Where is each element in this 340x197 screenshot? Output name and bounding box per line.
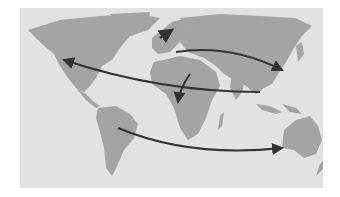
australia (282, 116, 322, 158)
new-zealand (316, 158, 323, 176)
arrow-south-america-to-australia (118, 128, 282, 151)
central-america (76, 88, 100, 108)
south-america (96, 106, 138, 176)
world-map-graphic (20, 8, 323, 188)
europe (152, 18, 190, 54)
japan (296, 42, 304, 62)
africa (150, 56, 220, 140)
india (230, 74, 246, 100)
indonesia (256, 104, 302, 114)
madagascar (218, 112, 224, 130)
world-map (20, 8, 323, 188)
